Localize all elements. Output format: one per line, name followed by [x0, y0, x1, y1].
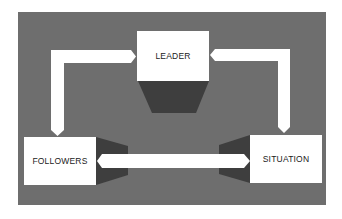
leader-situation-arrow	[210, 49, 290, 133]
followers-label: FOLLOWERS	[32, 156, 87, 166]
leader-node: LEADER	[137, 31, 209, 81]
situation-node: SITUATION	[250, 135, 322, 183]
leader-followers-arrow	[51, 50, 136, 136]
followers-node: FOLLOWERS	[24, 137, 96, 185]
leader-shadow	[138, 81, 209, 113]
situation-label: SITUATION	[263, 154, 310, 164]
followers-situation-arrow	[97, 154, 250, 168]
leader-label: LEADER	[155, 51, 190, 61]
